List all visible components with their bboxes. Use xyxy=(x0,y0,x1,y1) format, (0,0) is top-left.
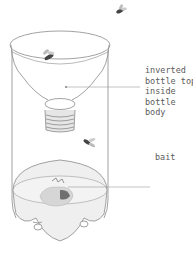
fly-icon xyxy=(116,4,128,15)
fly-icon xyxy=(42,49,54,62)
fly-trap-diagram: inverted bottle top inside bottle body b… xyxy=(0,0,193,255)
label-bait: bait xyxy=(155,152,175,163)
inverted-bottle-top xyxy=(10,31,110,110)
bottle-neck-threads xyxy=(45,110,75,132)
fly-icon xyxy=(83,137,96,148)
label-inverted-bottle-top: inverted bottle top inside bottle body xyxy=(145,65,193,118)
fly-trap-illustration xyxy=(0,0,193,255)
